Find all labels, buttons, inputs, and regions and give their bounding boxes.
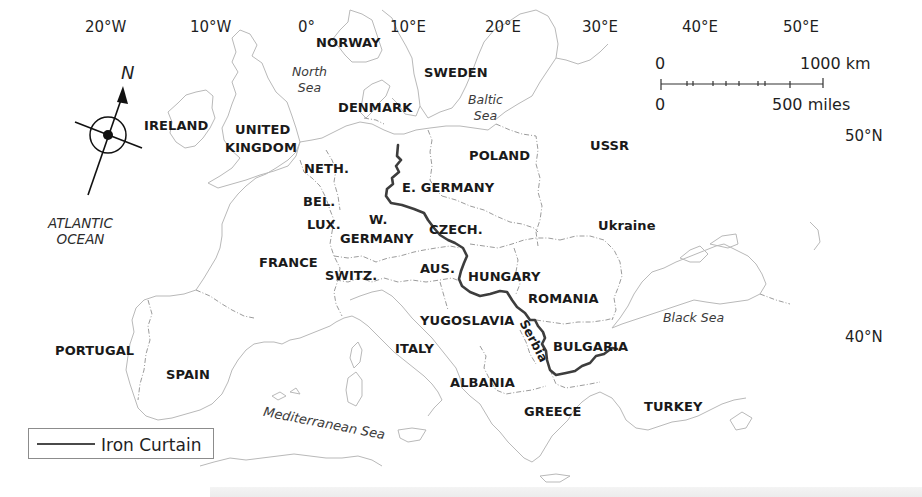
- scale-miles-end: 500 miles: [772, 97, 850, 113]
- country-label: ITALY: [395, 342, 434, 355]
- borders: [138, 118, 790, 400]
- country-label: AUS.: [420, 262, 455, 275]
- longitude-label: 20°E: [485, 20, 521, 35]
- country-label: GREECE: [524, 405, 581, 418]
- country-label: PORTUGAL: [55, 344, 134, 357]
- country-label: CZECH.: [429, 223, 483, 236]
- country-label: BEL.: [303, 195, 335, 208]
- longitude-label: 20°W: [85, 20, 126, 35]
- country-label: E. GERMANY: [402, 181, 494, 194]
- longitude-label: 40°E: [682, 20, 718, 35]
- longitude-label: 50°E: [783, 20, 819, 35]
- sea-label: Black Sea: [663, 310, 724, 326]
- atlantic-ocean-label: ATLANTIC OCEAN: [48, 215, 113, 247]
- sea-label: Baltic Sea: [468, 92, 503, 123]
- country-label: W.: [369, 213, 387, 226]
- scale-miles-start: 0: [655, 97, 665, 113]
- country-label: SPAIN: [166, 368, 210, 381]
- country-label: DENMARK: [338, 101, 412, 114]
- latitude-label: 50°N: [845, 129, 883, 144]
- compass-north-label: N: [121, 64, 134, 82]
- map-legend: Iron Curtain: [28, 428, 214, 459]
- country-label: YUGOSLAVIA: [420, 314, 514, 327]
- longitude-label: 0°: [298, 20, 315, 35]
- country-label: IRELAND: [144, 119, 208, 132]
- country-label: UNITED: [235, 123, 290, 136]
- country-label: SWITZ.: [325, 269, 377, 282]
- country-label: NORWAY: [316, 36, 381, 49]
- country-label: ALBANIA: [450, 376, 515, 389]
- country-label: Ukraine: [598, 219, 656, 232]
- country-label: FRANCE: [259, 256, 318, 269]
- country-label: TURKEY: [644, 400, 702, 413]
- country-label: USSR: [590, 139, 629, 152]
- longitude-label: 10°E: [390, 20, 426, 35]
- iron-curtain-legend-label: Iron Curtain: [101, 435, 201, 455]
- country-label: NETH.: [304, 162, 349, 175]
- scale-km-start: 0: [655, 56, 665, 72]
- scale-km-end: 1000 km: [800, 56, 871, 72]
- country-label: GERMANY: [340, 232, 414, 245]
- longitude-label: 30°E: [582, 20, 618, 35]
- country-label: SWEDEN: [424, 66, 488, 79]
- country-label: LUX.: [307, 218, 341, 231]
- compass-rose: [75, 86, 142, 195]
- bottom-shadow-band: [210, 487, 922, 497]
- country-label: HUNGARY: [468, 270, 540, 283]
- scale-bar: [661, 78, 823, 90]
- country-label: POLAND: [469, 149, 530, 162]
- compass-center-dot-icon: [103, 130, 113, 140]
- iron-curtain-legend-swatch: [37, 443, 95, 445]
- coastlines: [126, 10, 820, 482]
- country-label: KINGDOM: [225, 141, 297, 154]
- longitude-label: 10°W: [190, 20, 231, 35]
- compass-north-arrow-icon: [117, 86, 128, 104]
- country-label: ROMANIA: [528, 292, 599, 305]
- country-label: BULGARIA: [553, 340, 628, 353]
- sea-label: North Sea: [292, 64, 327, 95]
- latitude-label: 40°N: [845, 330, 883, 345]
